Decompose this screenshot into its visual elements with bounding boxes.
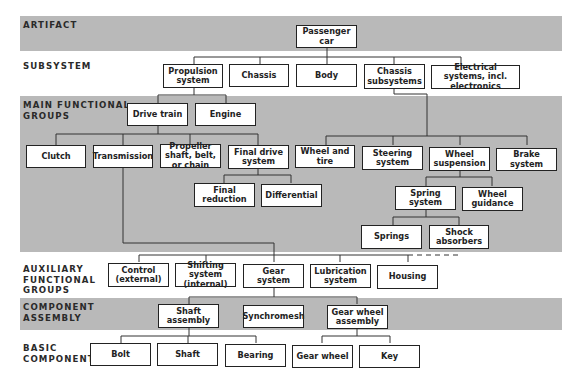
- node-synchromesh: Synchromesh: [243, 305, 304, 328]
- node-lubrication-system: Lubrication system: [310, 264, 371, 288]
- node-wheel-suspension: Wheel suspension: [429, 147, 490, 171]
- node-shaft: Shaft: [157, 343, 218, 366]
- node-passenger-car: Passenger car: [296, 25, 357, 48]
- node-housing: Housing: [377, 265, 438, 289]
- node-electrical-systems: Electrical systems, incl. electronics: [431, 65, 520, 89]
- node-brake-system: Brake system: [496, 148, 557, 171]
- node-wheel-guidance: Wheel guidance: [462, 187, 523, 211]
- node-bolt: Bolt: [90, 343, 151, 366]
- node-bearing: Bearing: [225, 344, 286, 367]
- node-key: Key: [359, 345, 420, 368]
- node-steering-system: Steering system: [362, 146, 423, 170]
- node-transmission: Transmission: [93, 145, 153, 168]
- node-chassis-subsystems: Chassis subsystems: [364, 64, 425, 89]
- node-shaft-assembly: Shaft assembly: [158, 304, 219, 328]
- node-shock-absorbers: Shock absorbers: [429, 225, 489, 249]
- node-final-drive-system: Final drive system: [228, 145, 289, 169]
- node-body: Body: [296, 64, 357, 87]
- node-propeller-shaft: Propeller shaft, belt, or chain: [160, 144, 221, 168]
- node-gear-wheel: Gear wheel: [292, 345, 353, 368]
- node-wheel-and-tire: Wheel and tire: [295, 145, 355, 168]
- node-shifting-system: Shifting system (internal): [175, 263, 236, 287]
- node-propulsion-system: Propulsion system: [163, 64, 223, 88]
- node-control-external: Control (external): [108, 263, 169, 287]
- node-spring-system: Spring system: [395, 186, 456, 210]
- node-final-reduction: Final reduction: [194, 183, 255, 207]
- node-engine: Engine: [195, 103, 256, 126]
- node-drive-train: Drive train: [127, 103, 188, 126]
- node-gear-wheel-assembly: Gear wheel assembly: [327, 305, 388, 329]
- node-clutch: Clutch: [26, 145, 86, 168]
- node-differential: Differential: [261, 184, 322, 207]
- node-springs: Springs: [361, 225, 422, 249]
- node-gear-system: Gear system: [243, 264, 304, 288]
- node-chassis: Chassis: [229, 64, 289, 87]
